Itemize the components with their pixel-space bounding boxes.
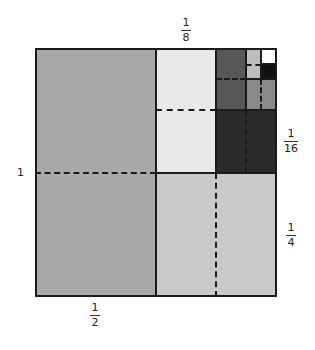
divider-twofiftysixth [261,63,277,65]
label-whole: 1 [17,166,24,179]
dashed-line-quarter [215,173,217,297]
label-eighth: 1 8 [181,17,191,44]
dashed-line-sixtyfourth [260,79,262,110]
label-sixteenth-denominator: 16 [284,143,298,155]
label-quarter-numerator: 1 [288,222,295,234]
label-quarter: 1 4 [286,222,296,249]
dashed-line-eighth [156,109,216,111]
dashed-line-sixteenth [245,110,247,173]
label-half: 1 2 [90,302,100,329]
label-sixteenth-numerator: 1 [288,128,295,140]
region-twofiftysixth [261,64,277,79]
region-remainder [261,48,277,64]
label-eighth-denominator: 8 [183,32,190,44]
dashed-line-thirtysecond [216,78,246,80]
label-half-numerator: 1 [92,302,99,314]
unit-square-diagram: 1 1 2 1 8 1 16 1 4 [0,0,315,350]
label-half-denominator: 2 [92,317,99,329]
label-sixteenth: 1 16 [284,128,298,155]
label-eighth-numerator: 1 [183,17,190,29]
dashed-line-half [35,172,156,174]
dashed-line-onetwentyeighth [246,64,261,66]
label-quarter-denominator: 4 [288,237,295,249]
